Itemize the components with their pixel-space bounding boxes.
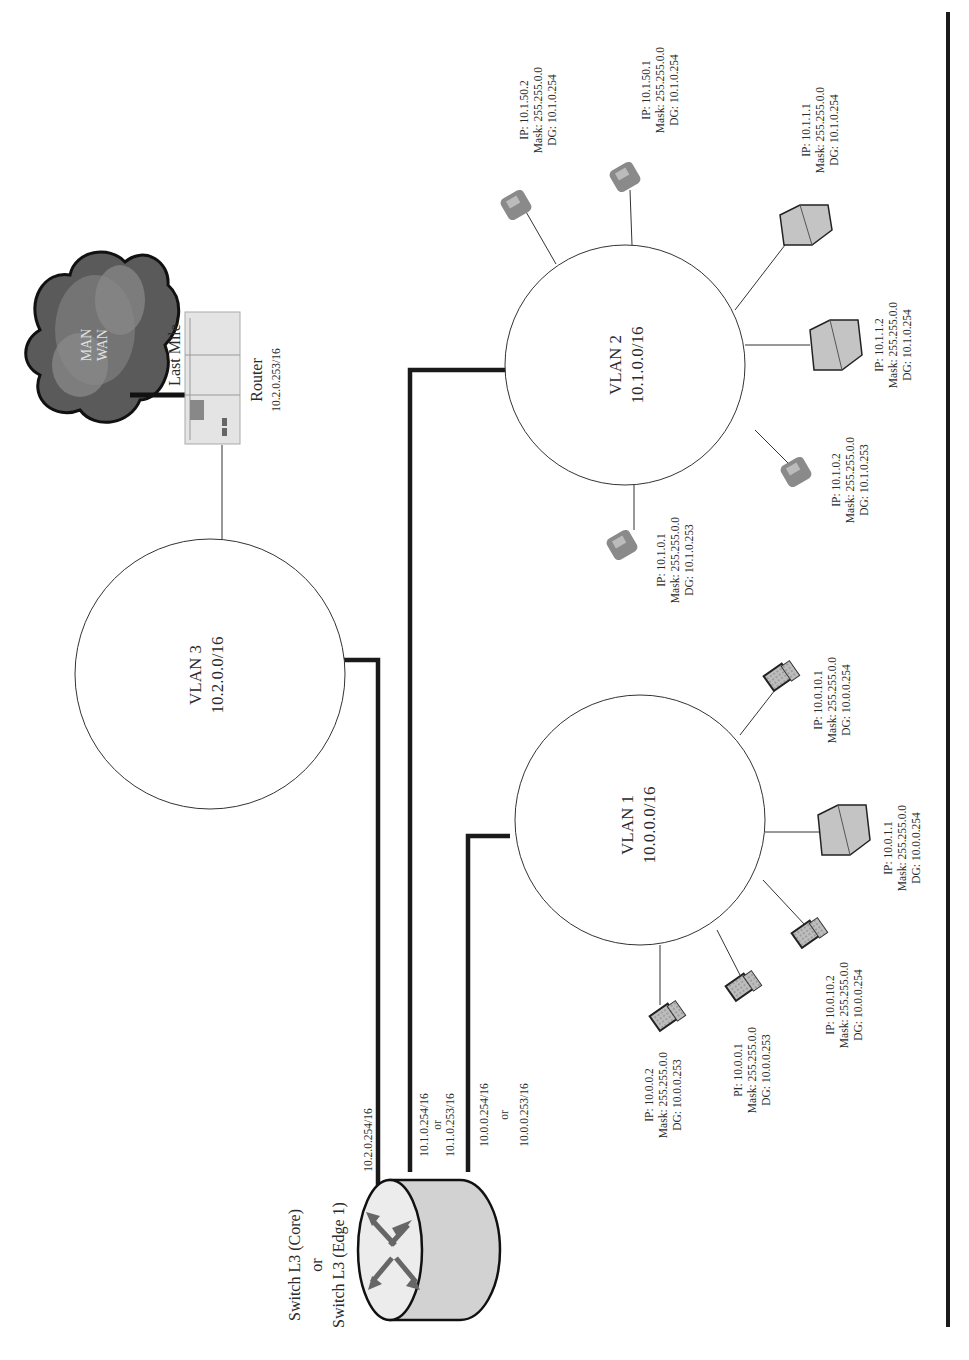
svg-text:10.2.0.0/16: 10.2.0.0/16 [208,637,227,714]
host-label: IP: 10.0.10.2 Mask: 255.255.0.0 DG: 10.0… [824,962,864,1049]
svg-text:DG: 10.1.0.253: DG: 10.1.0.253 [683,524,695,596]
svg-text:10.1.0.0/16: 10.1.0.0/16 [628,327,647,404]
ip-phone-icon [779,455,814,489]
svg-text:Mask: 255.255.0.0: Mask: 255.255.0.0 [532,67,544,154]
svg-text:DG: 10.1.0.254: DG: 10.1.0.254 [546,74,558,146]
svg-text:PI: 10.0.0.1: PI: 10.0.0.1 [732,1043,744,1097]
last-mile-label: Last Mile [166,324,183,386]
svg-text:IP: 10.1.50.1: IP: 10.1.50.1 [640,60,652,120]
svg-text:DG: 10.1.0.254: DG: 10.1.0.254 [668,54,680,126]
svg-text:Mask: 255.255.0.0: Mask: 255.255.0.0 [887,302,899,389]
svg-text:DG: 10.1.0.254: DG: 10.1.0.254 [901,309,913,381]
cloud-label-wan: WAN [95,329,110,361]
svg-text:IP: 10.1.1.1: IP: 10.1.1.1 [800,103,812,157]
svg-text:Mask: 255.255.0.0: Mask: 255.255.0.0 [657,1052,669,1139]
svg-text:DG: 10.0.0.253: DG: 10.0.0.253 [671,1059,683,1131]
svg-text:IP: 10.1.1.2: IP: 10.1.1.2 [873,318,885,372]
svg-text:10.0.0.0/16: 10.0.0.0/16 [640,787,659,864]
svg-text:DG: 10.0.0.254: DG: 10.0.0.254 [840,664,852,736]
laptop-icon [650,999,686,1033]
ip-phone-icon [608,160,643,194]
network-diagram: VLAN 3 10.2.0.0/16 VLAN 2 10.1.0.0/16 VL… [0,0,969,1360]
l3-switch-icon [358,1180,500,1320]
vlan2-circle [505,245,745,485]
svg-text:10.1.0.253/16: 10.1.0.253/16 [444,1093,456,1157]
svg-text:DG: 10.1.0.254: DG: 10.1.0.254 [828,94,840,166]
switch-label: Switch L3 (Core) or Switch L3 (Edge 1) [286,1202,348,1328]
host-label: IP: 10.1.1.1 Mask: 255.255.0.0 DG: 10.1.… [800,87,840,174]
laptop-icon [726,969,762,1003]
svg-text:or: or [308,1258,325,1272]
router-label: Router [248,358,265,402]
svg-text:IP: 10.1.0.2: IP: 10.1.0.2 [830,453,842,507]
svg-text:10.0.0.254/16: 10.0.0.254/16 [478,1083,490,1147]
host-label: IP: 10.1.50.2 Mask: 255.255.0.0 DG: 10.1… [518,67,558,154]
ip-phone-icon [605,528,640,562]
server-icon [810,320,862,370]
svg-text:DG: 10.0.0.253: DG: 10.0.0.253 [760,1034,772,1106]
vlan3-gateway-ip: 10.2.0.254/16 [362,1108,374,1172]
svg-text:IP: 10.0.10.2: IP: 10.0.10.2 [824,975,836,1035]
host-label: IP: 10.0.0.2 Mask: 255.255.0.0 DG: 10.0.… [643,1052,683,1139]
svg-text:Mask: 255.255.0.0: Mask: 255.255.0.0 [838,962,850,1049]
svg-text:IP: 10.0.10.1: IP: 10.0.10.1 [812,670,824,730]
svg-text:Mask: 255.255.0.0: Mask: 255.255.0.0 [826,657,838,744]
svg-text:Mask: 255.255.0.0: Mask: 255.255.0.0 [669,517,681,604]
svg-text:10.0.0.253/16: 10.0.0.253/16 [518,1083,530,1147]
svg-text:DG: 10.1.0.253: DG: 10.1.0.253 [858,444,870,516]
svg-text:IP: 10.1.50.2: IP: 10.1.50.2 [518,80,530,140]
host-label: IP: 10.1.1.2 Mask: 255.255.0.0 DG: 10.1.… [873,302,913,389]
svg-text:or: or [498,1110,510,1120]
svg-text:Mask: 255.255.0.0: Mask: 255.255.0.0 [814,87,826,174]
laptop-icon [764,659,800,693]
vlan2-gateway-ips: 10.1.0.254/16 or 10.1.0.253/16 [418,1093,456,1157]
vlan1-gateway-ips: 10.0.0.254/16 or 10.0.0.253/16 [478,1083,530,1147]
svg-text:VLAN 3: VLAN 3 [186,645,205,705]
svg-text:IP: 10.1.0.1: IP: 10.1.0.1 [655,533,667,587]
trunk-vlan2 [410,370,508,1172]
host-label: IP: 10.1.0.1 Mask: 255.255.0.0 DG: 10.1.… [655,517,695,604]
host-label: IP: 10.1.50.1 Mask: 255.255.0.0 DG: 10.1… [640,47,680,134]
server-icon [780,205,832,245]
laptop-icon [792,916,828,950]
svg-text:IP: 10.0.0.2: IP: 10.0.0.2 [643,1068,655,1122]
svg-text:or: or [431,1120,443,1130]
svg-text:Switch L3 (Edge 1): Switch L3 (Edge 1) [330,1202,348,1328]
svg-text:DG: 10.0.0.254: DG: 10.0.0.254 [852,969,864,1041]
svg-text:10.1.0.254/16: 10.1.0.254/16 [418,1093,430,1157]
host-label: IP: 10.0.1.1 Mask: 255.255.0.0 DG: 10.0.… [882,805,922,892]
svg-text:Mask: 255.255.0.0: Mask: 255.255.0.0 [654,47,666,134]
host-label: IP: 10.1.0.2 Mask: 255.255.0.0 DG: 10.1.… [830,437,870,524]
svg-text:Switch L3 (Core): Switch L3 (Core) [286,1209,304,1321]
svg-text:VLAN 2: VLAN 2 [606,335,625,395]
host-label: PI: 10.0.0.1 Mask: 255.255.0.0 DG: 10.0.… [732,1027,772,1114]
svg-text:Mask: 255.255.0.0: Mask: 255.255.0.0 [844,437,856,524]
svg-text:VLAN 1: VLAN 1 [618,795,637,855]
ip-phone-icon [499,188,534,222]
host-label: IP: 10.0.10.1 Mask: 255.255.0.0 DG: 10.0… [812,657,852,744]
cloud-label-man: MAN [79,329,94,362]
server-icon [818,805,870,855]
svg-text:IP: 10.0.1.1: IP: 10.0.1.1 [882,821,894,875]
svg-text:DG: 10.0.0.254: DG: 10.0.0.254 [910,812,922,884]
svg-text:Mask: 255.255.0.0: Mask: 255.255.0.0 [896,805,908,892]
router-ip: 10.2.0.253/16 [270,348,282,412]
svg-text:Mask: 255.255.0.0: Mask: 255.255.0.0 [746,1027,758,1114]
router-icon [185,312,240,444]
